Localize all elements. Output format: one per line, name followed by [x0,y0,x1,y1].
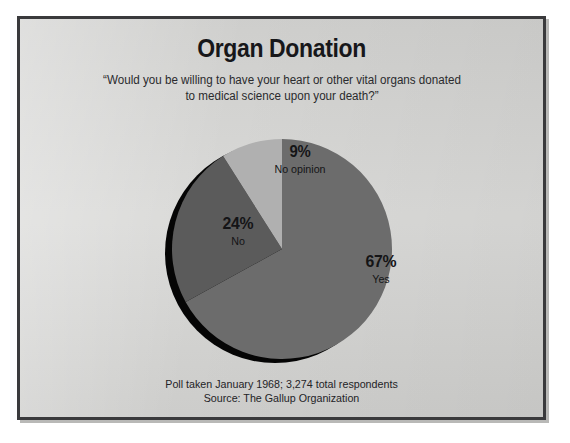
page-title: Organ Donation [41,19,522,63]
chart-header: Organ Donation “Would you be willing to … [20,19,543,104]
chart-footnote: Poll taken January 1968; 3,274 total res… [38,377,524,405]
frame-drop-shadow-bottom [20,420,549,423]
chart-footnote-poll: Poll taken January 1968; 3,274 total res… [38,377,524,391]
pie-chart: 67% Yes 24% No 9% No opinion [20,131,543,369]
pie-label-yes-value: 67% [344,253,418,271]
pie-label-no-opinion-value: 9% [254,143,347,161]
chart-subtitle-line-1: “Would you be willing to have your heart… [96,72,468,88]
pie-label-no-opinion: 9% No opinion [254,143,347,176]
pie-label-yes: 67% Yes [344,253,418,286]
chart-subtitle: “Would you be willing to have your heart… [96,72,468,104]
pie-label-no: 24% No [201,215,275,248]
chart-frame: Organ Donation “Would you be willing to … [17,16,546,420]
pie-label-no-value: 24% [201,215,275,233]
chart-subtitle-line-2: to medical science upon your death?” [96,88,468,104]
pie-label-no-opinion-name: No opinion [254,162,347,176]
pie-label-no-name: No [201,234,275,248]
frame-drop-shadow-right [546,19,549,423]
pie-label-yes-name: Yes [344,272,418,286]
chart-footnote-source: Source: The Gallup Organization [38,391,524,405]
